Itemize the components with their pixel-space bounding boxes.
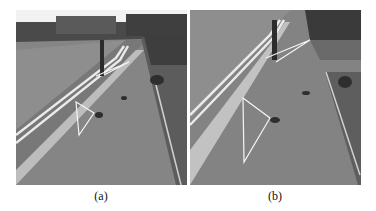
photo-panel-a	[16, 10, 187, 185]
caption-b: (b)	[255, 189, 295, 204]
sidewalk-photo-b	[190, 10, 361, 185]
caption-a: (a)	[81, 189, 121, 204]
photo-panel-b	[190, 10, 361, 185]
sidewalk-photo-a	[16, 10, 187, 185]
